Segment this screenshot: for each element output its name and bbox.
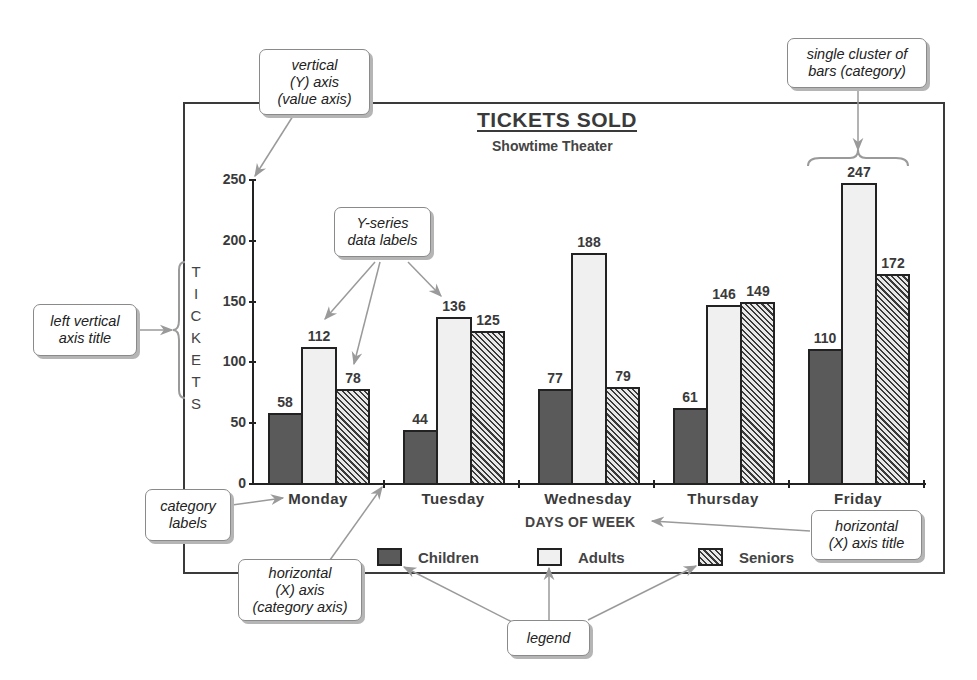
callout-x-axis-title: horizontal (X) axis title [811, 510, 922, 560]
callout-text: data labels [347, 232, 417, 249]
callout-text: horizontal [829, 518, 905, 535]
callout-text: vertical [277, 57, 351, 74]
callout-y-axis: vertical (Y) axis (value axis) [259, 49, 370, 115]
callout-text: (Y) axis [277, 74, 351, 91]
callout-text: labels [160, 515, 216, 532]
arrow-data-label-136 [408, 262, 441, 296]
callout-cluster: single cluster of bars (category) [787, 38, 927, 88]
annotation-arrows [0, 0, 977, 680]
y-title-brace [173, 262, 185, 398]
callout-text: (value axis) [277, 91, 351, 108]
arrow-legend-children [404, 567, 512, 622]
callout-text: (category axis) [252, 599, 347, 616]
arrow-legend-seniors [588, 566, 696, 620]
callout-x-axis: horizontal (X) axis (category axis) [238, 559, 362, 621]
arrow-x-axis [330, 487, 382, 560]
annotated-chart-diagram: TICKETS SOLD Showtime Theater 250 200 15… [0, 0, 977, 680]
callout-text: horizontal [252, 565, 347, 582]
callout-text: bars (category) [807, 63, 908, 80]
callout-text: (X) axis title [829, 535, 905, 552]
arrow-x-axis-title [652, 521, 810, 531]
callout-text: category [160, 498, 216, 515]
callout-text: left vertical [50, 313, 119, 330]
callout-data-labels: Y-series data labels [334, 207, 431, 257]
cluster-brace [808, 150, 908, 166]
arrow-data-label-78 [354, 262, 380, 364]
arrow-category-labels [232, 498, 283, 505]
callout-text: Y-series [347, 215, 417, 232]
callout-text: legend [527, 630, 571, 647]
callout-text: single cluster of [807, 46, 908, 63]
callout-text: axis title [50, 330, 119, 347]
callout-legend: legend [507, 620, 590, 656]
callout-text: (X) axis [252, 582, 347, 599]
callout-category-labels: category labels [145, 489, 231, 541]
callout-left-axis-title: left vertical axis title [33, 304, 137, 356]
arrow-y-axis [255, 116, 293, 176]
